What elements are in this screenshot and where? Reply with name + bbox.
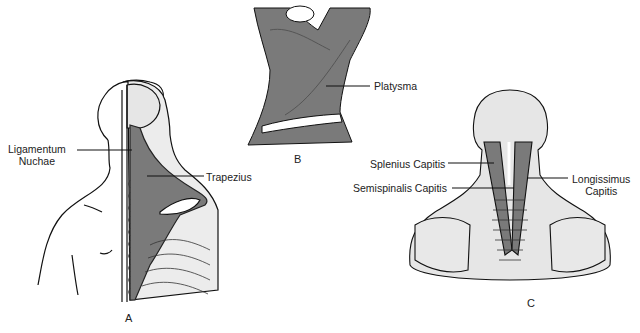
panel-b-figure	[248, 6, 370, 145]
label-platysma: Platysma	[374, 80, 417, 92]
label-longissimus-line1: Longissimus	[572, 173, 630, 185]
label-trapezius: Trapezius	[206, 171, 252, 183]
label-semispinalis-capitis: Semispinalis Capitis	[353, 182, 447, 194]
label-splenius-capitis: Splenius Capitis	[370, 158, 445, 170]
anatomy-illustration	[0, 0, 640, 333]
panel-a-figure	[38, 80, 218, 302]
label-longissimus-line2: Capitis	[572, 185, 630, 197]
panel-label-a: A	[125, 312, 132, 324]
label-ligamentum-line1: Ligamentum	[8, 143, 66, 155]
panel-label-b: B	[294, 153, 301, 165]
label-longissimus-capitis: Longissimus Capitis	[572, 173, 630, 197]
label-ligamentum-nuchae: Ligamentum Nuchae	[8, 143, 66, 167]
label-ligamentum-line2: Nuchae	[8, 155, 66, 167]
panel-label-c: C	[527, 297, 535, 309]
